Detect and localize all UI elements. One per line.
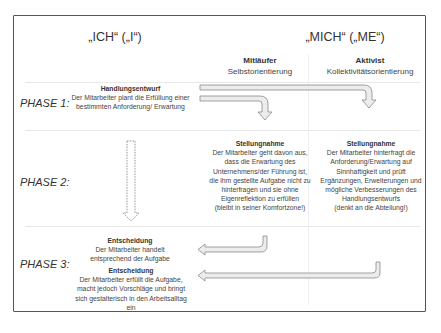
arrow-to-mitlaeufer-icon [200, 96, 272, 120]
arrow-mitlaeufer-to-decision-icon [198, 236, 267, 255]
arrow-aktivist-to-decision-icon [198, 262, 380, 281]
arrows-layer [0, 0, 441, 333]
dotted-down-arrow-icon [123, 141, 139, 221]
